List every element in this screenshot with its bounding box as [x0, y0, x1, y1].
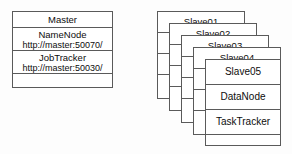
slave-node-box-5: Slave05 DataNode TaskTracker — [205, 59, 281, 146]
slave-footer-strip-5 — [206, 135, 280, 146]
diagram-canvas: Master NameNode http://master:50070/ Job… — [0, 0, 292, 154]
slave-node-stack: Slave01 Slave02 Slave03 Slave04 — [0, 0, 292, 154]
slave-tasktracker-label: TaskTracker — [206, 110, 280, 135]
slave-datanode-label: DataNode — [206, 85, 280, 110]
slave-title-5: Slave05 — [206, 60, 280, 85]
